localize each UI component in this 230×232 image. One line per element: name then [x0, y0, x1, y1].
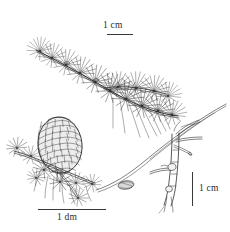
scale-bar-top — [107, 34, 133, 35]
scale-label-top: 1 cm — [103, 21, 123, 31]
scale-bar-bottom-left — [38, 209, 106, 210]
scale-label-right: 1 cm — [199, 184, 219, 194]
scale-label-bottom-left: 1 dm — [57, 213, 77, 223]
scale-bar-right — [192, 172, 193, 206]
botanical-illustration-plate: .ln { stroke:#2e2e2e; fill:none; stroke-… — [0, 0, 230, 232]
